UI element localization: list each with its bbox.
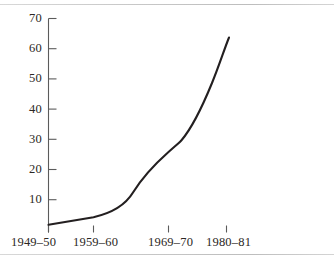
x-tick-label-1959-60: 1959–60 (73, 236, 118, 249)
y-tick-label-20: 20 (14, 163, 42, 176)
x-tick-label-1949-50: 1949–50 (11, 236, 56, 249)
x-tick-label-1980-81: 1980–81 (206, 236, 251, 249)
y-tick-label-40: 40 (14, 103, 42, 116)
line-chart-plot (0, 0, 334, 260)
y-tick-label-60: 60 (14, 42, 42, 55)
y-tick-label-10: 10 (14, 193, 42, 206)
x-tick-label-1969-70: 1969–70 (148, 236, 193, 249)
y-tick-label-30: 30 (14, 133, 42, 146)
y-tick-label-50: 50 (14, 72, 42, 85)
chart-figure: 70 60 50 40 30 20 10 1949–50 1959–60 196… (0, 0, 334, 260)
y-tick-label-70: 70 (14, 12, 42, 25)
data-line (49, 38, 230, 225)
x-axis-ticks (49, 226, 227, 233)
y-axis-ticks (49, 19, 57, 200)
